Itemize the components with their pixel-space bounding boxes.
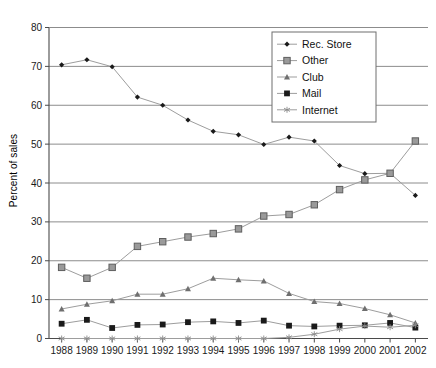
marker-square-black [84,317,90,323]
marker-diamond [236,132,241,137]
marker-square-black [160,322,166,328]
marker-square-black [109,325,115,331]
marker-square-gray [58,264,64,270]
marker-triangle [286,290,292,296]
marker-diamond [286,135,291,140]
marker-square-gray [109,264,115,270]
x-tick-label: 1997 [278,345,301,356]
marker-square-gray [235,226,241,232]
marker-diamond [160,103,165,108]
marker-square-gray [210,230,216,236]
marker-diamond [362,171,367,176]
marker-diamond [261,142,266,147]
marker-square-gray [261,213,267,219]
x-tick-label: 1993 [177,345,200,356]
y-axis-ticks: 01020304050607080 [31,22,49,344]
legend-item-label: Mail [302,87,321,99]
series-mail [59,317,419,331]
marker-square-gray [412,138,418,144]
series-other [58,138,418,282]
y-tick-label: 10 [31,294,43,305]
y-tick-label: 70 [31,61,43,72]
line-chart-plot: 01020304050607080 1988198919901991199219… [0,0,436,368]
marker-square-gray [311,202,317,208]
x-tick-label: 1996 [253,345,276,356]
series-line [62,278,416,323]
y-tick-label: 60 [31,100,43,111]
marker-square-black [210,318,216,324]
marker-square-black [59,321,65,327]
x-tick-label: 2002 [404,345,427,356]
marker-square-black [261,318,267,324]
series-club [59,275,419,325]
marker-square-black [286,323,292,329]
x-tick-label: 1999 [328,345,351,356]
marker-square-black [311,324,317,330]
series-line [62,141,416,278]
chart-legend[interactable]: Rec. StoreOtherClubMailInternet [272,32,376,122]
x-tick-label: 1990 [101,345,124,356]
x-tick-label: 1995 [227,345,250,356]
legend-item-label: Club [302,71,324,83]
x-tick-label: 1998 [303,345,326,356]
marker-square-black [135,322,141,328]
marker-square-black [236,320,242,326]
chart-container: Percent of sales 01020304050607080 19881… [0,0,436,368]
marker-square-gray [336,186,342,192]
marker-square-gray [160,239,166,245]
legend-item-label: Internet [302,104,338,116]
marker-diamond [211,129,216,134]
marker-square-gray [134,243,140,249]
marker-diamond [84,57,89,62]
x-tick-label: 1988 [51,345,74,356]
marker-square-gray [284,57,290,63]
marker-square-gray [286,211,292,217]
y-tick-label: 30 [31,216,43,227]
x-tick-label: 1992 [152,345,175,356]
x-tick-label: 1989 [76,345,99,356]
y-tick-label: 20 [31,255,43,266]
legend-item-label: Other [302,54,329,66]
x-tick-label: 2001 [379,345,402,356]
y-tick-label: 40 [31,178,43,189]
marker-diamond [185,117,190,122]
y-tick-label: 50 [31,139,43,150]
marker-square-gray [387,170,393,176]
marker-square-gray [84,275,90,281]
marker-square-black [284,91,290,97]
x-tick-label: 1991 [126,345,149,356]
marker-triangle [185,286,191,292]
marker-square-gray [362,177,368,183]
y-tick-label: 80 [31,22,43,33]
x-tick-label: 1994 [202,345,225,356]
marker-square-gray [185,234,191,240]
marker-square-black [185,319,191,325]
legend-item-label: Rec. Store [302,38,352,50]
x-tick-label: 2000 [354,345,377,356]
y-tick-label: 0 [36,333,42,344]
